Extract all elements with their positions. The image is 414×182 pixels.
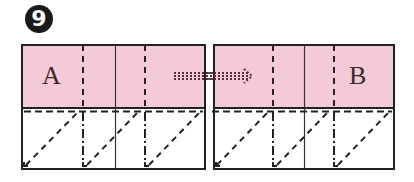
panel-right xyxy=(212,45,394,169)
origami-step-diagram xyxy=(0,0,414,182)
panel-right-label: B xyxy=(349,63,366,89)
panel-left-label: A xyxy=(42,63,61,89)
step-number-badge: 9 xyxy=(25,5,53,33)
